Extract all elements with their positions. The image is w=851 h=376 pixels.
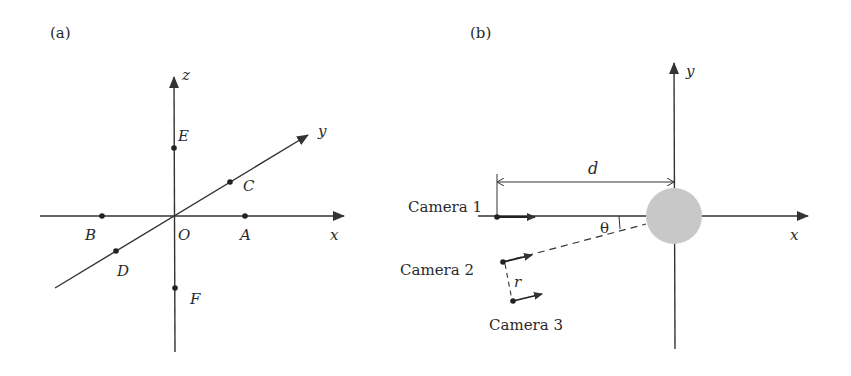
point-f-label: F [189, 290, 201, 308]
target-object [646, 188, 702, 244]
point-c-label: C [243, 177, 255, 195]
point-a-label: A [238, 226, 251, 244]
x-axis-label: x [790, 226, 799, 244]
point-b [99, 213, 105, 219]
panel-b: (b) y x d Camera 1 Camera 2 θ r Camera 3 [400, 24, 808, 349]
x-axis-label: x [330, 226, 339, 244]
camera-3-direction-arrow [513, 294, 542, 301]
origin-label: O [178, 226, 190, 244]
camera-2-label: Camera 2 [400, 261, 474, 279]
y-axis [55, 135, 308, 288]
panel-a: (a) z y x O E C B A D F [40, 24, 344, 352]
panel-b-label: (b) [470, 24, 491, 42]
angle-arc [619, 216, 620, 229]
camera-1-label: Camera 1 [408, 198, 482, 216]
panel-a-label: (a) [50, 24, 71, 42]
distance-label: d [588, 159, 598, 178]
angle-label: θ [600, 219, 609, 237]
point-d-label: D [116, 262, 129, 280]
point-e-label: E [177, 127, 189, 145]
point-f [172, 285, 178, 291]
offset-label: r [514, 273, 522, 291]
z-axis-label: z [181, 66, 190, 84]
y-axis-label: y [685, 62, 695, 80]
camera-2-direction-arrow [503, 255, 532, 262]
point-b-label: B [84, 226, 96, 244]
offset-r-dashed [505, 264, 512, 300]
point-e [171, 145, 177, 151]
figure-canvas: (a) z y x O E C B A D F (b) y x [0, 0, 851, 376]
point-d [113, 248, 119, 254]
z-axis [174, 77, 175, 352]
point-c [227, 179, 233, 185]
camera-3-label: Camera 3 [489, 316, 563, 334]
y-axis-label: y [317, 122, 327, 140]
point-a [242, 213, 248, 219]
